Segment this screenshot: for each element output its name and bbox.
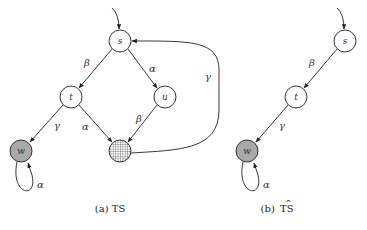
node-dotted [109, 140, 131, 162]
node-label-s: s [118, 36, 123, 46]
edge-label-t-w-b: γ [279, 120, 285, 131]
node-label-t-b: t [294, 92, 298, 102]
initial-arrow-s-b [337, 8, 344, 29]
caption-b-prefix: (b) [261, 203, 278, 214]
node-label-s-b: s [343, 36, 348, 46]
edge-label-t-w: γ [54, 120, 60, 131]
caption-b-hat: ^ [285, 198, 292, 207]
edge-label-s-t: β [83, 57, 90, 68]
node-label-w: w [17, 146, 25, 156]
node-label-t: t [69, 92, 73, 102]
edge-label-x-s: γ [205, 71, 211, 82]
edge-u-x [128, 105, 157, 142]
edge-s-t-b [304, 49, 337, 88]
node-label-u: u [162, 92, 168, 102]
edge-label-s-t-b: β [308, 57, 315, 68]
edge-s-t [79, 49, 112, 88]
panel-b: s t w β γ α (b) TS ^ [236, 8, 356, 214]
panel-a: s t u w β α γ α β γ α (a) TS [10, 8, 219, 214]
edge-label-s-u: α [149, 63, 156, 74]
initial-arrow-s [112, 8, 119, 29]
caption-a: (a) TS [95, 203, 126, 214]
edge-label-u-x: β [135, 113, 142, 124]
transition-system-diagram: s t u w β α γ α β γ α (a) TS s t w β γ α… [0, 0, 367, 230]
edge-w-w-b [242, 162, 259, 191]
edge-label-w-w-b: α [263, 179, 270, 190]
edge-label-t-x: α [82, 121, 89, 132]
node-label-w-b: w [243, 146, 251, 156]
edge-label-w-w: α [37, 179, 44, 190]
edge-w-w [16, 162, 33, 191]
